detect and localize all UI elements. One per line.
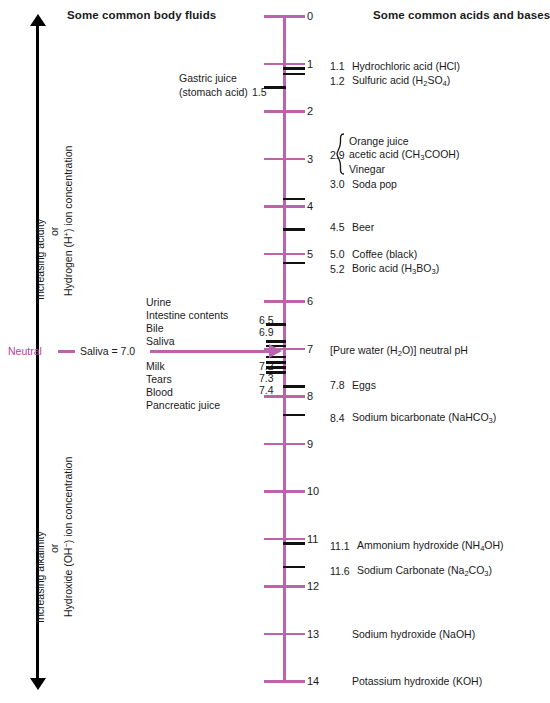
label-beer: Beer xyxy=(352,221,374,233)
value-7-4: 7.4 xyxy=(259,384,274,396)
label-gastric-juice-2: (stomach acid) xyxy=(179,86,248,98)
value-5-0: 5.0 xyxy=(330,248,345,260)
ph-value-tick-1-1 xyxy=(283,67,305,70)
value-11-1: 11.1 xyxy=(330,540,350,552)
ph-tick-4 xyxy=(264,205,305,208)
value-6-9: 6.9 xyxy=(259,326,274,338)
label-intestine-contents: Intestine contents xyxy=(146,309,228,321)
ph-tick-1 xyxy=(264,63,305,66)
label-blood: Blood xyxy=(146,386,173,398)
ph-number-6: 6 xyxy=(307,295,313,307)
label-potassium-hydroxide: Potassium hydroxide (KOH) xyxy=(352,675,482,687)
ph-value-tick-11-1 xyxy=(283,542,305,545)
value-1-2: 1.2 xyxy=(330,75,345,87)
label-coffee: Coffee (black) xyxy=(352,248,417,260)
ph-tick-13 xyxy=(264,633,305,636)
ph-number-12: 12 xyxy=(307,580,319,592)
neutral-label: Neutral xyxy=(8,345,42,357)
ph-number-4: 4 xyxy=(307,200,313,212)
ph-value-tick-5-2 xyxy=(283,262,305,265)
ph-tick-5 xyxy=(264,253,305,256)
value-7-8: 7.8 xyxy=(330,379,345,391)
label-acetic-acid: acetic acid (CH3COOH) xyxy=(349,148,459,162)
neutral-dash xyxy=(58,350,75,353)
ph-value-tick-1-22 xyxy=(283,73,305,76)
label-orange-juice: Orange juice xyxy=(349,135,409,147)
value-3-0: 3.0 xyxy=(330,178,345,190)
axis-caption-increasing-alkalinity: Increasing alkalinity xyxy=(34,531,46,623)
ph-tick-9 xyxy=(264,443,305,446)
value-gastric-juice: 1.5 xyxy=(252,86,267,98)
label-ammonium-hydroxide: Ammonium hydroxide (NH4OH) xyxy=(357,539,504,553)
ph-number-9: 9 xyxy=(307,438,313,450)
ph-value-tick-11-6 xyxy=(283,566,305,569)
ph-tick-10 xyxy=(264,490,305,493)
arrow-down-icon xyxy=(30,678,46,690)
label-pure-water: [Pure water (H2O)] neutral pH xyxy=(330,344,468,358)
label-sodium-bicarbonate: Sodium bicarbonate (NaHCO3) xyxy=(352,411,496,425)
ph-number-8: 8 xyxy=(307,390,313,402)
value-5-2: 5.2 xyxy=(330,263,345,275)
label-boric-acid: Boric acid (H3BO3) xyxy=(352,262,439,276)
label-soda-pop: Soda pop xyxy=(352,178,397,190)
ph-number-3: 3 xyxy=(307,153,313,165)
ph-value-tick-6-85 xyxy=(266,340,286,343)
ph-value-tick-4-5 xyxy=(283,228,305,231)
axis-caption-increasing-acidity: Increasing acidity xyxy=(34,219,46,300)
label-tears: Tears xyxy=(146,373,172,385)
value-6-5: 6.5 xyxy=(259,314,274,326)
ph-number-10: 10 xyxy=(307,485,319,497)
label-milk: Milk xyxy=(146,360,165,372)
label-urine: Urine xyxy=(146,296,171,308)
label-sulfuric-acid: Sulfuric acid (H2SO4) xyxy=(352,74,450,88)
label-sodium-hydroxide: Sodium hydroxide (NaOH) xyxy=(352,628,475,640)
label-bile: Bile xyxy=(146,322,164,334)
ph-tick-2 xyxy=(264,110,305,113)
value-11-6: 11.6 xyxy=(330,565,350,577)
ph-tick-3 xyxy=(264,158,305,161)
ph-number-7: 7 xyxy=(307,343,313,355)
value-7-3: 7.3 xyxy=(259,372,274,384)
ph-value-tick-1-5 xyxy=(264,86,286,89)
brace-icon xyxy=(336,133,345,175)
header-acids-bases: Some common acids and bases xyxy=(373,9,550,21)
ph-number-2: 2 xyxy=(307,105,313,117)
label-sodium-carbonate: Sodium Carbonate (Na2CO3) xyxy=(357,564,492,578)
ph-tick-0 xyxy=(264,15,305,18)
value-1-1: 1.1 xyxy=(330,60,345,72)
label-hydrochloric-acid: Hydrochloric acid (HCl) xyxy=(352,60,460,72)
axis-caption-or-base: or xyxy=(48,544,60,553)
ph-number-5: 5 xyxy=(307,248,313,260)
header-body-fluids: Some common body fluids xyxy=(67,9,216,21)
ph-number-13: 13 xyxy=(307,628,319,640)
ph-tick-12 xyxy=(264,585,305,588)
ph-tick-11 xyxy=(264,538,305,541)
value-8-4: 8.4 xyxy=(330,412,345,424)
label-eggs: Eggs xyxy=(352,379,376,391)
label-gastric-juice-1: Gastric juice xyxy=(179,72,237,84)
ph-value-tick-7-8 xyxy=(283,385,305,388)
ph-number-14: 14 xyxy=(307,675,319,687)
axis-caption-hydroxide: Hydroxide (OH−) ion concentration xyxy=(62,457,74,617)
saliva-equals-label: Saliva = 7.0 xyxy=(80,345,135,357)
ph-value-tick-8-4 xyxy=(283,414,305,417)
arrow-right-icon xyxy=(150,344,285,358)
value-4-5: 4.5 xyxy=(330,221,345,233)
ph-tick-14 xyxy=(264,680,305,683)
value-7-2: 7.2 xyxy=(259,360,274,372)
axis-caption-hydrogen: Hydrogen (H+) ion concentration xyxy=(62,146,74,296)
ph-number-0: 0 xyxy=(307,10,313,22)
label-vinegar: Vinegar xyxy=(349,163,385,175)
ph-number-1: 1 xyxy=(307,58,313,70)
label-pancreatic-juice: Pancreatic juice xyxy=(146,399,220,411)
ph-number-11: 11 xyxy=(307,533,318,545)
ph-value-tick-3-85 xyxy=(283,198,305,201)
ph-tick-6 xyxy=(264,300,305,303)
axis-caption-or-acid: or xyxy=(48,227,60,236)
